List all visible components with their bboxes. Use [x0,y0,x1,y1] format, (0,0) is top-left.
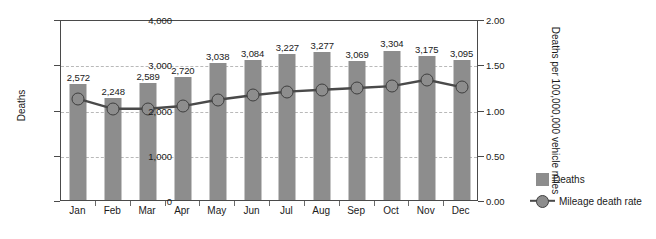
y-axis-title-left: Deaths [16,61,27,151]
y-tick-mark-right [478,156,484,157]
x-tick-mark [374,201,375,206]
rate-marker [211,93,224,106]
x-tick-mark [339,201,340,206]
legend-item-deaths: Deaths [530,168,642,190]
x-tick-mark [443,201,444,206]
x-tick-label: Nov [417,205,435,216]
x-tick-label: Dec [452,205,470,216]
rate-marker [316,83,329,96]
y-tick-mark-left [54,111,60,112]
x-tick-label: Apr [174,205,190,216]
x-tick-label: Jun [244,205,260,216]
y-tick-label-right: 1.50 [486,60,505,71]
x-tick-label: Mar [138,205,155,216]
x-tick-mark [269,201,270,206]
y-tick-mark-left [54,65,60,66]
rate-marker [246,89,259,102]
y-tick-label-left: 4,000 [102,15,172,26]
y-tick-mark-left [54,20,60,21]
y-tick-mark-left [54,156,60,157]
x-tick-mark [304,201,305,206]
y-tick-mark-right [478,111,484,112]
rate-marker [385,80,398,93]
rate-marker [420,73,433,86]
legend-swatch-icon [536,173,549,186]
y-tick-label-left: 2,000 [102,105,172,116]
legend: Deaths Mileage death rate [530,168,642,212]
legend-circle-icon [536,195,549,208]
y-tick-label-left: 3,000 [102,60,172,71]
rate-marker [455,81,468,94]
legend-label-deaths: Deaths [553,174,585,185]
y-tick-mark-right [478,20,484,21]
legend-item-mileage-death-rate: Mileage death rate [530,190,642,212]
y-tick-label-right: 2.00 [486,15,505,26]
chart-container: Deaths Deaths per 100,000,000 vehicle mi… [0,0,656,239]
x-tick-label: Jan [69,205,85,216]
x-tick-mark [234,201,235,206]
x-tick-mark [199,201,200,206]
y-tick-label-right: 0.50 [486,150,505,161]
rate-marker [72,92,85,105]
legend-label-mileage-death-rate: Mileage death rate [559,196,642,207]
y-tick-mark-right [478,65,484,66]
x-tick-label: May [207,205,226,216]
legend-line-marker-icon [530,195,555,208]
y-tick-mark-left [54,201,60,202]
rate-marker [176,100,189,113]
rate-marker [281,85,294,98]
x-tick-label: Jul [280,205,293,216]
x-tick-label: Aug [312,205,330,216]
x-tick-label: Sep [347,205,365,216]
x-tick-mark [165,201,166,206]
y-tick-mark-right [478,201,484,202]
x-tick-mark [130,201,131,206]
x-tick-label: Oct [383,205,399,216]
x-tick-label: Feb [104,205,121,216]
y-tick-label-right: 1.00 [486,105,505,116]
x-tick-mark [95,201,96,206]
y-tick-label-left: 1,000 [102,150,172,161]
rate-marker [351,81,364,94]
y-tick-label-right: 0.00 [486,196,505,207]
x-tick-mark [408,201,409,206]
